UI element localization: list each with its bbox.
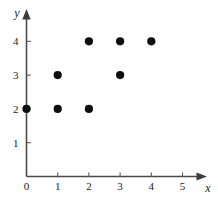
data-point bbox=[116, 37, 124, 45]
data-point-group bbox=[22, 37, 155, 113]
y-tick-label: 3 bbox=[13, 69, 19, 81]
x-tick-label: 3 bbox=[117, 180, 123, 192]
x-axis-label: x bbox=[204, 181, 211, 195]
data-point bbox=[54, 105, 62, 113]
data-point bbox=[147, 37, 155, 45]
x-tick-label: 5 bbox=[180, 180, 186, 192]
data-point bbox=[85, 37, 93, 45]
x-tick-label: 0 bbox=[24, 180, 30, 192]
x-axis-arrowhead bbox=[197, 172, 208, 180]
data-point bbox=[54, 71, 62, 79]
x-tick-label-group: 012345 bbox=[24, 180, 186, 192]
y-tick-label: 1 bbox=[13, 137, 19, 149]
scatter-plot-figure: 012345 1234 x y bbox=[0, 0, 218, 201]
plot-canvas: 012345 1234 x y bbox=[0, 0, 218, 201]
y-axis-group bbox=[22, 9, 30, 177]
x-tick-label: 1 bbox=[55, 180, 61, 192]
x-tick-label: 2 bbox=[86, 180, 92, 192]
y-tick-label-group: 1234 bbox=[13, 35, 19, 148]
data-point bbox=[116, 71, 124, 79]
y-axis-arrowhead bbox=[22, 9, 30, 20]
y-axis-label: y bbox=[13, 6, 20, 20]
data-point bbox=[85, 105, 93, 113]
y-tick-label: 4 bbox=[13, 35, 19, 47]
data-point bbox=[22, 105, 30, 113]
y-tick-label: 2 bbox=[13, 103, 19, 115]
x-tick-label: 4 bbox=[149, 180, 155, 192]
